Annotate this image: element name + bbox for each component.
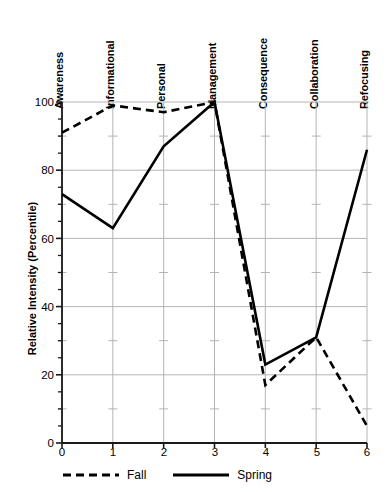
legend-entry-fall: Fall	[62, 469, 146, 481]
axis-lines	[56, 102, 367, 448]
stages-of-concern-chart: Awareness Informational Personal Managem…	[0, 0, 390, 492]
legend-entry-spring: Spring	[172, 469, 272, 481]
legend-label-spring: Spring	[237, 469, 272, 481]
legend-label-fall: Fall	[127, 469, 146, 481]
legend-swatch-spring-solid	[172, 469, 230, 481]
plot-area	[0, 0, 390, 492]
legend: Fall Spring	[62, 463, 322, 487]
legend-swatch-fall-dashed	[62, 469, 120, 481]
